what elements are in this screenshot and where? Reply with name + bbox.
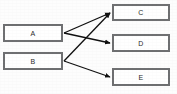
node-e-label: E [139, 74, 144, 81]
node-d-label: D [138, 40, 143, 47]
node-c-label: C [138, 9, 143, 16]
node-a[interactable]: A [3, 24, 63, 42]
node-b-label: B [31, 58, 36, 65]
edges-group [64, 13, 110, 77]
edge-a-to-d [64, 33, 110, 43]
node-a-label: A [31, 30, 36, 37]
node-b[interactable]: B [3, 52, 63, 70]
node-c[interactable]: C [112, 4, 170, 21]
edge-a-to-c [64, 13, 110, 33]
node-d[interactable]: D [112, 34, 170, 52]
node-e[interactable]: E [112, 68, 170, 86]
edge-b-to-c [64, 13, 110, 61]
diagram-canvas: A B C D E [0, 0, 177, 94]
edge-b-to-e [64, 61, 110, 77]
